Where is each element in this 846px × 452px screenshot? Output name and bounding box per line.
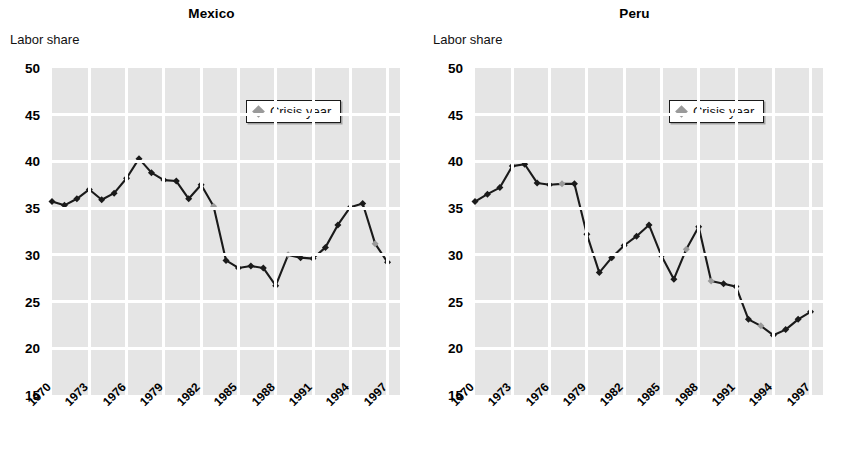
page-title: Peru xyxy=(423,6,846,21)
y-tick-label: 35 xyxy=(448,201,463,216)
gridline-vertical xyxy=(237,68,240,395)
y-tick-label: 50 xyxy=(25,61,40,76)
gridline-vertical xyxy=(511,68,514,395)
y-axis-caption: Labor share xyxy=(10,32,79,47)
y-tick-label: 25 xyxy=(25,294,40,309)
y-tick-label: 20 xyxy=(25,341,40,356)
data-line xyxy=(475,164,811,335)
data-point-marker xyxy=(571,180,578,187)
plot-area-peru: Crisis year xyxy=(475,68,823,395)
legend-label: Crisis year xyxy=(270,104,331,119)
y-tick-label: 30 xyxy=(448,247,463,262)
gridline-vertical xyxy=(88,68,91,395)
y-axis-caption: Labor share xyxy=(433,32,502,47)
y-tick-label: 30 xyxy=(25,247,40,262)
gridline-vertical xyxy=(772,68,775,395)
figure-canvas: Mexico Labor share 1520253035404550 Cris… xyxy=(0,0,846,452)
gridline-vertical xyxy=(349,68,352,395)
data-point-marker xyxy=(49,198,56,205)
legend-mexico: Crisis year xyxy=(246,100,341,123)
plot-area-mexico: Crisis year xyxy=(52,68,400,395)
y-tick-label: 25 xyxy=(448,294,463,309)
y-tick-label: 50 xyxy=(448,61,463,76)
gridline-vertical xyxy=(312,68,315,395)
gridline-vertical xyxy=(697,68,700,395)
crisis-year-marker xyxy=(708,278,715,285)
chart-panel-mexico: Mexico Labor share 1520253035404550 Cris… xyxy=(0,0,423,452)
y-tick-label: 45 xyxy=(25,107,40,122)
gridline-vertical xyxy=(623,68,626,395)
gridline-vertical xyxy=(125,68,128,395)
y-tick-label: 35 xyxy=(25,201,40,216)
y-tick-label: 40 xyxy=(448,154,463,169)
x-axis-tick-labels: 1970197319761979198219851988199119941997 xyxy=(52,395,400,452)
gridline-vertical xyxy=(660,68,663,395)
gridline-vertical xyxy=(585,68,588,395)
legend-label: Crisis year xyxy=(693,104,754,119)
gridline-vertical xyxy=(162,68,165,395)
gridline-vertical xyxy=(735,68,738,395)
page-title: Mexico xyxy=(0,6,423,21)
y-tick-label: 45 xyxy=(448,107,463,122)
y-tick-label: 40 xyxy=(25,154,40,169)
gridline-vertical xyxy=(274,68,277,395)
data-point-marker xyxy=(720,280,727,287)
gridline-vertical xyxy=(200,68,203,395)
crisis-year-marker xyxy=(559,180,566,187)
y-axis-tick-labels: 1520253035404550 xyxy=(423,68,469,395)
x-axis-tick-labels: 1970197319761979198219851988199119941997 xyxy=(475,395,823,452)
legend-peru: Crisis year xyxy=(669,100,764,123)
y-axis-tick-labels: 1520253035404550 xyxy=(0,68,46,395)
y-tick-label: 20 xyxy=(448,341,463,356)
gridline-vertical xyxy=(809,68,812,395)
gridline-vertical xyxy=(386,68,389,395)
chart-panel-peru: Peru Labor share 1520253035404550 Crisis… xyxy=(423,0,846,452)
data-point-marker xyxy=(247,263,254,270)
gridline-vertical xyxy=(548,68,551,395)
